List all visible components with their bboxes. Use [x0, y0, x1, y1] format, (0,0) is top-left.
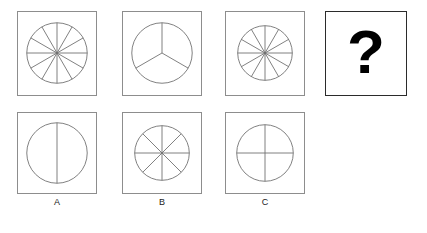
circle-6-sectors-icon [226, 12, 304, 95]
circle-6-sectors-icon [18, 12, 96, 95]
unknown-cell: ? [325, 11, 407, 96]
option-c[interactable] [225, 112, 305, 194]
option-label-a: A [17, 198, 97, 207]
option-a[interactable] [17, 112, 97, 194]
option-label-b: B [122, 198, 202, 207]
puzzle-root: ? A B C [0, 0, 427, 233]
sequence-cell-3 [225, 11, 305, 96]
option-b[interactable] [122, 112, 202, 194]
sequence-cell-1 [17, 11, 97, 96]
circle-8-sectors-icon [123, 113, 201, 193]
question-mark-icon: ? [326, 12, 406, 95]
circle-4-sectors-icon [226, 113, 304, 193]
circle-3-sectors-icon [123, 12, 201, 95]
option-label-c: C [225, 198, 305, 207]
circle-2-sectors-icon [18, 113, 96, 193]
sequence-cell-2 [122, 11, 202, 96]
